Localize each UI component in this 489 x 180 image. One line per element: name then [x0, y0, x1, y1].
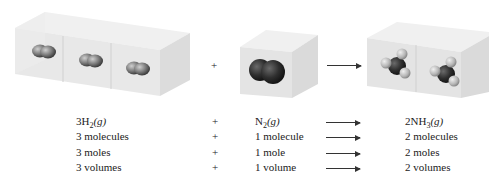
- row-left: 3 volumes: [76, 161, 122, 174]
- row-left: 3 moles: [76, 146, 111, 159]
- row-mid: 1 mole: [255, 146, 285, 159]
- formula-text: 2NH: [405, 115, 426, 127]
- plus-sign: +: [212, 115, 218, 128]
- plus-sign: +: [212, 161, 218, 174]
- reaction-arrow: [326, 153, 360, 154]
- reaction-arrow: [326, 137, 360, 138]
- formula-text: N: [255, 115, 263, 127]
- row-right: 2 moles: [405, 146, 440, 159]
- row-mid: 1 volume: [255, 161, 296, 174]
- top-plus-sign: +: [211, 59, 217, 71]
- row-left: 3 molecules: [76, 130, 129, 143]
- formula-state: (g): [93, 115, 106, 127]
- plus-sign: +: [212, 146, 218, 159]
- row-right: 2 volumes: [405, 161, 451, 174]
- h2-molecule: [126, 62, 150, 76]
- formula-text: 3H: [76, 115, 89, 127]
- row-mid: 1 molecule: [255, 130, 304, 143]
- reaction-arrow: [326, 168, 360, 169]
- row-right: 2 molecules: [405, 130, 458, 143]
- h2-molecule: [79, 54, 103, 68]
- formula-state: (g): [267, 115, 280, 127]
- reaction-illustration: [0, 0, 489, 100]
- plus-sign: +: [212, 130, 218, 143]
- h2-molecule: [32, 45, 56, 59]
- top-reaction-arrow: [327, 65, 361, 66]
- reaction-arrow: [326, 122, 360, 123]
- formula-state: (g): [430, 115, 443, 127]
